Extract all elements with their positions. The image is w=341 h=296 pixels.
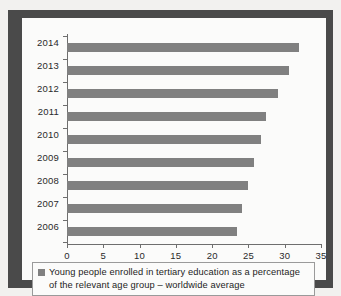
y-axis-tick [63,36,67,37]
x-axis-label: 25 [233,250,263,261]
bar-row: 2012 [67,82,321,105]
x-axis-label: 30 [270,250,300,261]
category-label: 2007 [19,198,59,210]
x-axis-tick [248,244,249,248]
x-axis-tick [176,244,177,248]
category-label: 2010 [19,129,59,141]
x-axis-tick [140,244,141,248]
bar-chart: 2014 2013 2012 2011 [22,18,326,280]
category-label: 2009 [19,152,59,164]
bar [67,66,289,75]
bar [67,89,278,98]
x-axis-label: 5 [88,250,118,261]
x-axis-label: 35 [306,250,336,261]
bar [67,181,248,190]
y-axis-tick [63,220,67,221]
bar-row: 2009 [67,151,321,174]
x-axis-tick [103,244,104,248]
y-axis-tick [63,174,67,175]
bar-row: 2010 [67,128,321,151]
plot-area: 2014 2013 2012 2011 [67,36,321,243]
chart-legend: Young people enrolled in tertiary educat… [32,262,315,296]
x-axis-label: 10 [125,250,155,261]
bar-row: 2008 [67,174,321,197]
bar [67,204,242,213]
bar-row: 2007 [67,197,321,220]
y-axis-tick [63,151,67,152]
y-axis-tick [63,128,67,129]
bar [67,227,237,236]
scanned-page: 2014 2013 2012 2011 [0,0,341,296]
bar [67,112,266,121]
x-axis-tick [285,244,286,248]
figure-border: 2014 2013 2012 2011 [8,10,333,288]
bar-row: 2006 [67,220,321,243]
bar [67,135,261,144]
bar-row: 2011 [67,105,321,128]
x-axis-tick [212,244,213,248]
y-axis-tick [63,105,67,106]
figure-canvas: 2014 2013 2012 2011 [22,18,326,280]
y-axis-tick [63,82,67,83]
category-label: 2012 [19,83,59,95]
legend-label: Young people enrolled in tertiary educat… [49,266,309,291]
bar [67,43,299,52]
category-label: 2008 [19,175,59,187]
y-axis-tick [63,59,67,60]
legend-entry: Young people enrolled in tertiary educat… [38,266,309,291]
x-axis-label: 15 [161,250,191,261]
x-axis-label: 0 [52,250,82,261]
x-axis-tick [321,244,322,248]
x-axis-tick [67,244,68,248]
category-label: 2013 [19,60,59,72]
category-label: 2014 [19,37,59,49]
legend-swatch-icon [38,269,45,276]
x-axis-label: 20 [197,250,227,261]
category-label: 2011 [19,106,59,118]
bar-row: 2014 [67,36,321,59]
y-axis-tick [63,197,67,198]
y-axis-tick [63,242,67,243]
bar [67,158,254,167]
category-label: 2006 [19,221,59,233]
bar-row: 2013 [67,59,321,82]
